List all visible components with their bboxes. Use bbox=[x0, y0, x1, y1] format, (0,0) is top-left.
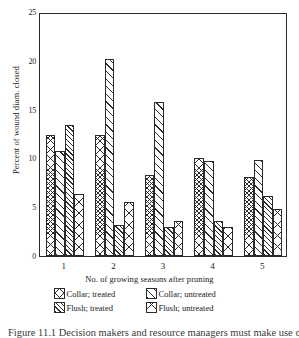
y-tick-label: 10 bbox=[14, 155, 36, 163]
y-tick-label: 0 bbox=[14, 253, 36, 261]
bar bbox=[273, 209, 283, 256]
bars-layer bbox=[40, 14, 286, 256]
x-tick-label: 5 bbox=[247, 261, 277, 271]
bar bbox=[105, 59, 115, 256]
legend-item-collar-untreated: Collar; untreated bbox=[146, 288, 246, 299]
bar bbox=[124, 202, 134, 256]
legend-item-label: Flush; untreated bbox=[159, 303, 214, 313]
bar bbox=[114, 225, 124, 256]
bar bbox=[164, 227, 174, 256]
bar bbox=[244, 177, 254, 256]
y-tick-label: 15 bbox=[14, 107, 36, 115]
bar bbox=[95, 135, 105, 256]
bar bbox=[154, 102, 164, 256]
x-tick-label: 2 bbox=[98, 261, 128, 271]
legend-swatch-icon bbox=[54, 288, 65, 299]
bar bbox=[223, 227, 233, 256]
bar bbox=[174, 221, 184, 256]
bar bbox=[214, 221, 224, 256]
bar bbox=[194, 158, 204, 256]
y-axis: Percent of wound diam. closed 0510152025 bbox=[0, 0, 39, 270]
bar bbox=[55, 151, 65, 256]
bar bbox=[145, 175, 155, 256]
bar bbox=[254, 160, 264, 256]
chart-legend: Collar; treated Collar; untreated Flush;… bbox=[0, 288, 299, 316]
bar bbox=[263, 196, 273, 257]
x-tick-label: 4 bbox=[198, 261, 228, 271]
legend-item-label: Collar; untreated bbox=[159, 289, 216, 299]
y-tick-label: 20 bbox=[14, 58, 36, 66]
y-tick-label: 5 bbox=[14, 204, 36, 212]
legend-swatch-icon bbox=[146, 288, 157, 299]
bar bbox=[74, 194, 84, 256]
legend-item-label: Flush; treated bbox=[67, 303, 114, 313]
legend-item-flush-untreated: Flush; untreated bbox=[146, 302, 246, 313]
legend-item-collar-treated: Collar; treated bbox=[54, 288, 146, 299]
y-tick-label: 25 bbox=[14, 9, 36, 17]
bar bbox=[204, 161, 214, 256]
legend-row: Flush; treated Flush; untreated bbox=[0, 302, 299, 313]
figure-caption: Figure 11.1 Decision makers and resource… bbox=[8, 327, 299, 338]
legend-item-label: Collar; treated bbox=[67, 289, 116, 299]
legend-item-flush-treated: Flush; treated bbox=[54, 302, 146, 313]
bar bbox=[65, 125, 75, 256]
x-tick-label: 1 bbox=[49, 261, 79, 271]
x-tick-label: 3 bbox=[148, 261, 178, 271]
plot-area bbox=[39, 13, 287, 257]
x-axis-title: No. of growing seasons after pruning bbox=[0, 274, 299, 284]
legend-swatch-icon bbox=[54, 302, 65, 313]
bar bbox=[46, 135, 56, 256]
legend-swatch-icon bbox=[146, 302, 157, 313]
legend-row: Collar; treated Collar; untreated bbox=[0, 288, 299, 299]
